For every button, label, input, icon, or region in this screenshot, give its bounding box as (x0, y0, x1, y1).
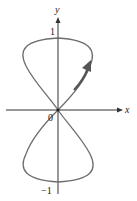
direction-arrow-shaft (74, 68, 88, 90)
x-axis-arrowhead (117, 108, 123, 113)
polar-curve-diagram: y x 1 0 −1 (0, 0, 137, 201)
y-axis-arrowhead (56, 17, 61, 23)
x-axis-label: x (124, 104, 130, 115)
tick-label-top: 1 (50, 26, 55, 37)
y-axis-label: y (54, 4, 60, 15)
tick-label-bottom: −1 (41, 185, 52, 196)
origin-label: 0 (48, 112, 53, 123)
origin-point (56, 108, 59, 111)
